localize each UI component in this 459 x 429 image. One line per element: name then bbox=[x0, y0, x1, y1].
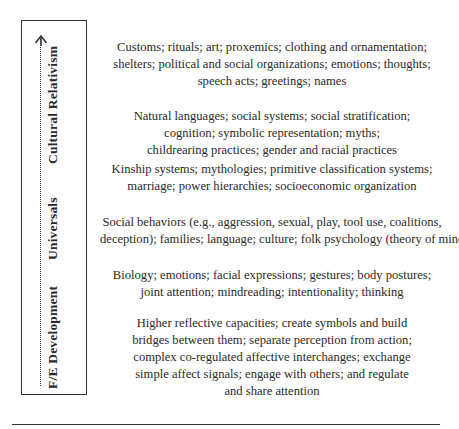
text-line: marriage; power hierarchies; socioeconom… bbox=[100, 178, 444, 195]
text-line: speech acts; greetings; names bbox=[100, 73, 444, 90]
text-block-natural-languages: Natural languages; social systems; socia… bbox=[100, 108, 444, 159]
text-block-social-behaviors: Social behaviors (e.g., aggression, sexu… bbox=[100, 214, 444, 248]
text-line: Social behaviors (e.g., aggression, sexu… bbox=[100, 214, 444, 231]
dotted-axis-line bbox=[40, 39, 41, 386]
text-line: Customs; rituals; art; proxemics; clothi… bbox=[100, 39, 444, 56]
text-line: complex co-regulated affective interchan… bbox=[100, 349, 444, 366]
text-line: Higher reflective capacities; create sym… bbox=[100, 315, 444, 332]
text-line: deception); families; language; culture;… bbox=[100, 231, 444, 248]
text-line: Natural languages; social systems; socia… bbox=[100, 108, 444, 125]
text-line: joint attention; mindreading; intentiona… bbox=[100, 284, 444, 301]
arrow-up-icon bbox=[34, 34, 48, 46]
text-line: bridges between them; separate perceptio… bbox=[100, 332, 444, 349]
text-line: Kinship systems; mythologies; primitive … bbox=[100, 161, 444, 178]
text-block-customs: Customs; rituals; art; proxemics; clothi… bbox=[100, 39, 444, 90]
bottom-rule-divider bbox=[12, 424, 440, 425]
axis-label-fe-development: F/E Development bbox=[46, 286, 60, 389]
axis-label-cultural-relativism: Cultural Relativism bbox=[46, 46, 60, 164]
text-line: simple affect signals; engage with other… bbox=[100, 366, 444, 383]
text-line: and share attention bbox=[100, 383, 444, 400]
text-block-kinship-systems: Kinship systems; mythologies; primitive … bbox=[100, 161, 444, 195]
text-block-higher-reflective-capacities: Higher reflective capacities; create sym… bbox=[100, 315, 444, 400]
axis-label-universals: Universals bbox=[46, 197, 60, 260]
text-line: shelters; political and social organizat… bbox=[100, 56, 444, 73]
text-line: Biology; emotions; facial expressions; g… bbox=[100, 267, 444, 284]
text-line: cognition; symbolic representation; myth… bbox=[100, 125, 444, 142]
text-line: childrearing practices; gender and racia… bbox=[100, 142, 444, 159]
text-block-biology: Biology; emotions; facial expressions; g… bbox=[100, 267, 444, 301]
